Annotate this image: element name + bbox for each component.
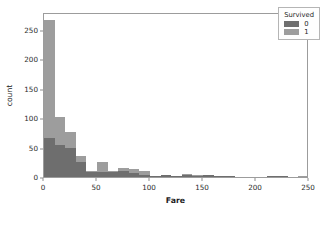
- y-tick-label-200: 200: [24, 57, 38, 64]
- x-axis-label: Fare: [43, 196, 308, 205]
- bar-series-0-bin-50: [97, 172, 108, 177]
- bar-series-0-bin-60: [108, 172, 119, 177]
- plot-area: [43, 13, 308, 178]
- histogram-bars: [44, 14, 307, 177]
- bar-series-0-bin-130: [182, 175, 193, 177]
- x-tick-label-250: 250: [301, 184, 315, 191]
- x-tick-mark-200: [255, 178, 256, 181]
- y-tick-label-50: 50: [29, 145, 38, 152]
- bar-series-0-bin-90: [139, 175, 150, 177]
- x-tick-mark-50: [96, 178, 97, 181]
- bar-series-0-bin-110: [161, 175, 172, 177]
- bar-series-0-bin-150: [203, 175, 214, 177]
- y-tick-label-150: 150: [24, 86, 38, 93]
- y-tick-label-0: 0: [33, 174, 38, 181]
- legend-label-0: 0: [304, 21, 308, 28]
- bar-series-0-bin-0: [44, 138, 55, 177]
- y-axis: 050100150200250: [0, 13, 43, 178]
- x-tick-mark-150: [202, 178, 203, 181]
- legend-swatch-1: [284, 29, 299, 35]
- bar-series-0-bin-210: [267, 176, 278, 177]
- bar-series-0-bin-140: [192, 176, 203, 177]
- x-tick-mark-250: [308, 178, 309, 181]
- bar-series-0-bin-100: [150, 176, 161, 177]
- x-axis: 050100150200250: [43, 178, 308, 196]
- bar-series-0-bin-30: [76, 162, 87, 177]
- bar-series-0-bin-10: [55, 145, 66, 177]
- y-tick-label-250: 250: [24, 27, 38, 34]
- legend-entry-1: 1: [284, 29, 314, 36]
- x-tick-label-50: 50: [91, 184, 100, 191]
- x-tick-mark-100: [149, 178, 150, 181]
- bar-series-0-bin-20: [65, 148, 76, 177]
- y-tick-label-100: 100: [24, 115, 38, 122]
- bar-series-0-bin-120: [171, 176, 182, 177]
- x-tick-label-200: 200: [248, 184, 262, 191]
- x-tick-label-0: 0: [41, 184, 46, 191]
- bar-series-0-bin-40: [86, 172, 97, 177]
- chart-figure: count 050100150200250 050100150200250 Fa…: [0, 0, 326, 226]
- bar-series-0-bin-70: [118, 171, 129, 177]
- x-tick-label-150: 150: [195, 184, 209, 191]
- bar-series-0-bin-160: [214, 176, 225, 177]
- bar-series-0-bin-170: [224, 176, 235, 177]
- legend-swatch-0: [284, 21, 299, 27]
- legend: Survived 01: [278, 7, 320, 40]
- legend-entries: 01: [284, 21, 314, 36]
- legend-label-1: 1: [304, 29, 308, 36]
- x-tick-mark-0: [43, 178, 44, 181]
- legend-entry-0: 0: [284, 21, 314, 28]
- bar-series-1-bin-240: [298, 176, 308, 177]
- bar-series-0-bin-220: [277, 176, 288, 177]
- legend-title: Survived: [284, 11, 314, 19]
- bar-series-0-bin-80: [129, 173, 140, 177]
- x-tick-label-100: 100: [142, 184, 156, 191]
